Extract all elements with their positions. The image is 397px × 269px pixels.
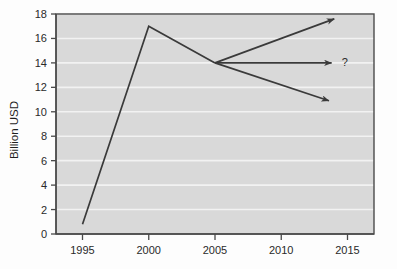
plot-area-background bbox=[56, 14, 374, 234]
annotations-layer: ? bbox=[342, 56, 348, 68]
line-chart: ? 024681012141618 19952000200520102015 B… bbox=[0, 0, 397, 269]
y-tick-label-6: 6 bbox=[41, 155, 47, 167]
y-tick-label-12: 12 bbox=[35, 81, 47, 93]
x-tick-label-1995: 1995 bbox=[70, 244, 94, 256]
chart-container: ? 024681012141618 19952000200520102015 B… bbox=[0, 0, 397, 269]
x-tick-label-2000: 2000 bbox=[137, 244, 161, 256]
x-tick-label-2015: 2015 bbox=[335, 244, 359, 256]
y-tick-label-10: 10 bbox=[35, 106, 47, 118]
y-tick-label-4: 4 bbox=[41, 179, 47, 191]
y-tick-label-2: 2 bbox=[41, 204, 47, 216]
annotation-question-mark: ? bbox=[342, 56, 348, 68]
y-axis-title: Billion USD bbox=[8, 101, 20, 159]
x-tick-label-2010: 2010 bbox=[269, 244, 293, 256]
y-tick-label-18: 18 bbox=[35, 8, 47, 20]
y-tick-label-16: 16 bbox=[35, 32, 47, 44]
y-tick-label-0: 0 bbox=[41, 228, 47, 240]
x-tick-label-2005: 2005 bbox=[203, 244, 227, 256]
y-tick-label-14: 14 bbox=[35, 57, 47, 69]
y-tick-label-8: 8 bbox=[41, 130, 47, 142]
